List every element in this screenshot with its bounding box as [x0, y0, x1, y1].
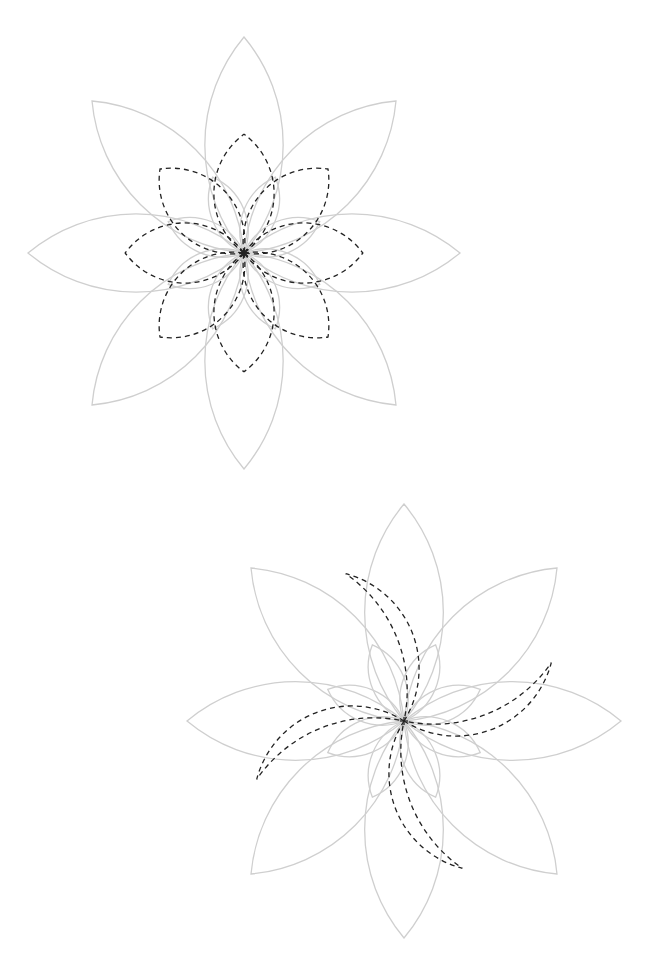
dashed-construction-petal — [214, 253, 274, 372]
dashed-construction-petal — [159, 252, 245, 338]
dashed-construction-petal — [214, 134, 274, 253]
diagram-canvas — [0, 0, 645, 957]
dashed-construction-petal — [243, 252, 329, 338]
dashed-construction-petal — [159, 168, 245, 254]
outer-petal-outline — [92, 101, 244, 253]
outer-petal-outline — [187, 682, 404, 761]
outer-petal-outline — [244, 253, 396, 405]
outer-petal-outline — [404, 682, 621, 761]
outer-petal-outline — [28, 214, 244, 292]
dashed-construction-petal — [244, 223, 363, 283]
flower-diagram-pinwheel — [187, 504, 621, 938]
outer-petal-outline — [365, 504, 444, 721]
dashed-construction-petal — [125, 223, 244, 283]
dashed-construction-petal — [243, 168, 329, 254]
outer-petal-outline — [205, 37, 283, 253]
outer-petal-outline — [205, 253, 283, 469]
flower-diagram-symmetric — [28, 37, 460, 469]
outer-petal-outline — [244, 101, 396, 253]
outer-petal-outline — [92, 253, 244, 405]
outer-petal-outline — [244, 214, 460, 292]
outer-petal-outline — [365, 721, 444, 938]
